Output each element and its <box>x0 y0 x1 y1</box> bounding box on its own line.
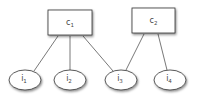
item-node-i1: i1 <box>9 70 41 90</box>
item-node-i2: i2 <box>54 70 86 90</box>
concept-node-c2: c2 <box>132 8 175 33</box>
item-node-i4: i4 <box>154 70 186 90</box>
concept-item-diagram: c1c2i1i2i3i4 <box>0 0 197 97</box>
concept-node-c1: c1 <box>48 10 92 35</box>
item-node-i3: i3 <box>105 70 137 90</box>
edge-c2-i4 <box>158 34 167 70</box>
edge-c1-i3 <box>83 36 113 71</box>
edge-c1-i1 <box>34 36 58 71</box>
edge-c2-i3 <box>126 34 144 70</box>
